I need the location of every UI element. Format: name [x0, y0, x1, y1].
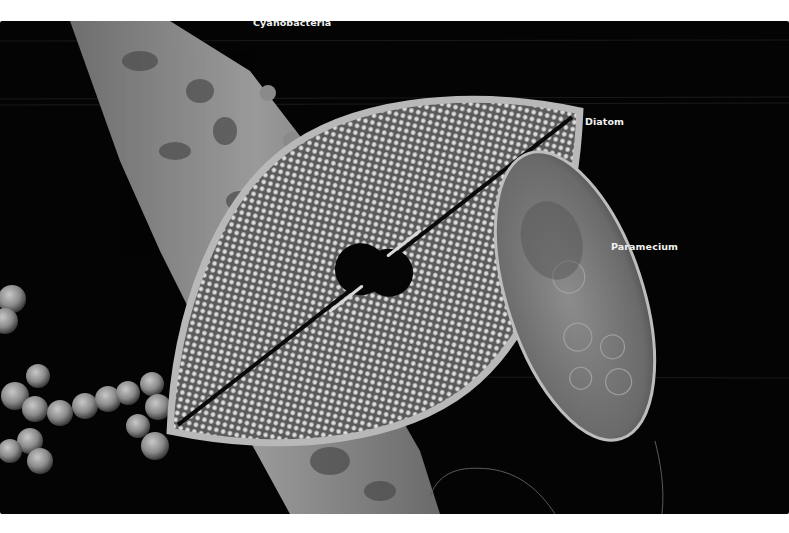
threads [430, 441, 663, 514]
micrograph-illustration [0, 21, 789, 514]
label-cyanobacteria: Cyanobacteria [253, 21, 331, 28]
label-paramecium: Paramecium [611, 241, 678, 252]
cocci-chain [0, 285, 171, 474]
label-diatom: Diatom [585, 116, 624, 127]
micrograph-image: Cyanobacteria Diatom Paramecium [0, 21, 789, 514]
